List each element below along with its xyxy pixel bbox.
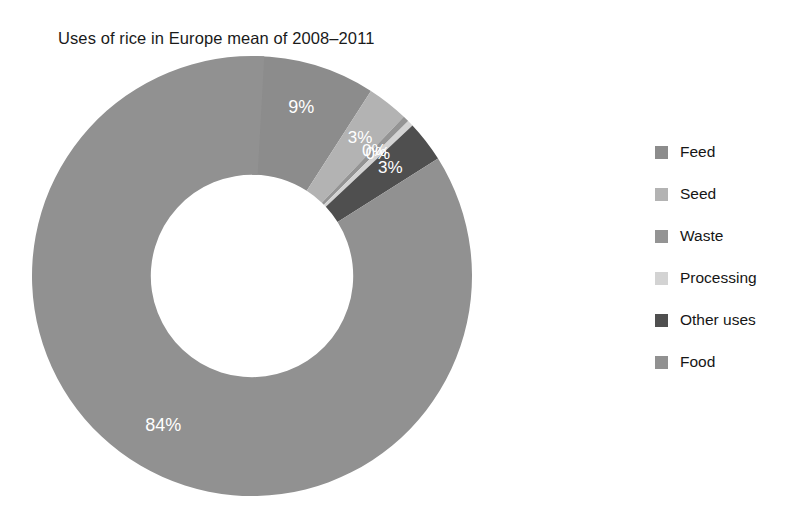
- legend-swatch-icon: [655, 314, 668, 327]
- donut-slices: [32, 56, 472, 496]
- chart-canvas: Uses of rice in Europe mean of 2008–2011…: [0, 0, 810, 513]
- legend-swatch-icon: [655, 230, 668, 243]
- legend-item-label: Waste: [680, 228, 723, 244]
- legend-item-label: Seed: [680, 186, 716, 202]
- legend-swatch-icon: [655, 146, 668, 159]
- legend-item[interactable]: Processing: [655, 257, 805, 299]
- slice-data-label: 84%: [145, 415, 181, 435]
- legend-swatch-icon: [655, 356, 668, 369]
- legend-item-label: Processing: [680, 270, 757, 286]
- legend-swatch-icon: [655, 272, 668, 285]
- legend-item[interactable]: Feed: [655, 131, 805, 173]
- legend-item[interactable]: Waste: [655, 215, 805, 257]
- legend-item[interactable]: Other uses: [655, 299, 805, 341]
- slice-data-label: 9%: [288, 97, 314, 117]
- legend-item-label: Feed: [680, 144, 715, 160]
- legend-item-label: Other uses: [680, 312, 756, 328]
- legend-item-label: Food: [680, 354, 715, 370]
- donut-svg: 9%3%0%0%3%84%: [0, 0, 520, 513]
- legend-item[interactable]: Seed: [655, 173, 805, 215]
- donut-chart: 9%3%0%0%3%84%: [0, 0, 520, 513]
- slice-data-label: 3%: [378, 158, 403, 177]
- legend-item[interactable]: Food: [655, 341, 805, 383]
- legend-swatch-icon: [655, 188, 668, 201]
- chart-legend: FeedSeedWasteProcessingOther usesFood: [655, 131, 805, 383]
